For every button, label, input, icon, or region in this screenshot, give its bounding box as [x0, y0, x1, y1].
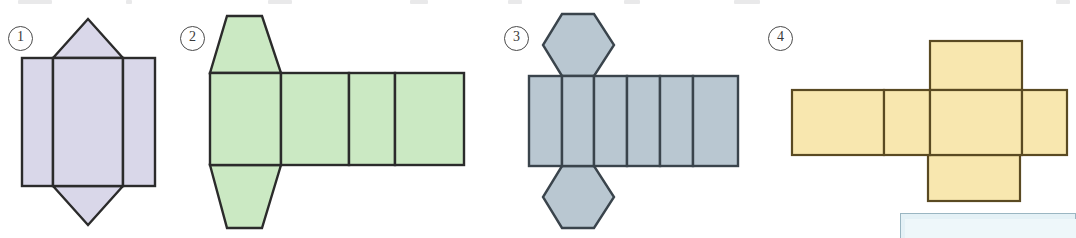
- callout-panel-inner: [905, 219, 1076, 238]
- trapezoid-bottom-face: [210, 165, 281, 228]
- rect-face-2: [281, 73, 349, 165]
- rect-face-middle: [53, 58, 123, 186]
- figure-label-1: 1: [8, 26, 33, 51]
- rect-face-row-2: [884, 90, 930, 155]
- figure-4-cuboid-net: 4: [760, 0, 1076, 238]
- trapezoid-top-face: [210, 16, 281, 73]
- worksheet-page: 1 2 3: [0, 0, 1076, 238]
- figure-2-trapezoidal-prism-net: 2: [175, 0, 495, 238]
- figure-label-4: 4: [768, 26, 793, 51]
- hexagon-top-face: [543, 14, 614, 76]
- triangle-bottom-face: [53, 186, 123, 225]
- rect-face-3: [594, 76, 627, 166]
- rect-face-row-3: [930, 90, 1022, 155]
- figure-label-2: 2: [180, 26, 205, 51]
- rect-face-4: [395, 73, 464, 165]
- figure-3-hexagonal-prism-net: 3: [500, 0, 780, 238]
- rect-face-6: [693, 76, 738, 166]
- rect-face-1: [210, 73, 281, 165]
- rect-face-bottom: [928, 155, 1020, 201]
- rect-face-3: [349, 73, 395, 165]
- rect-face-4: [627, 76, 660, 166]
- rect-face-top: [930, 41, 1022, 90]
- rect-face-row-1: [792, 90, 884, 155]
- triangle-top-face: [53, 19, 123, 58]
- rect-face-5: [660, 76, 693, 166]
- rect-face-1: [529, 76, 562, 166]
- hexagon-bottom-face: [543, 166, 614, 228]
- rect-face-row-4: [1022, 90, 1067, 155]
- figure-1-triangular-prism-net: 1: [0, 0, 180, 238]
- figure-4-drawing: [760, 0, 1076, 238]
- rect-face-left: [22, 58, 53, 186]
- figure-label-3: 3: [504, 26, 529, 51]
- figure-2-drawing: [175, 0, 495, 238]
- rect-face-right: [123, 58, 155, 186]
- rect-face-2: [562, 76, 594, 166]
- figure-3-drawing: [500, 0, 780, 238]
